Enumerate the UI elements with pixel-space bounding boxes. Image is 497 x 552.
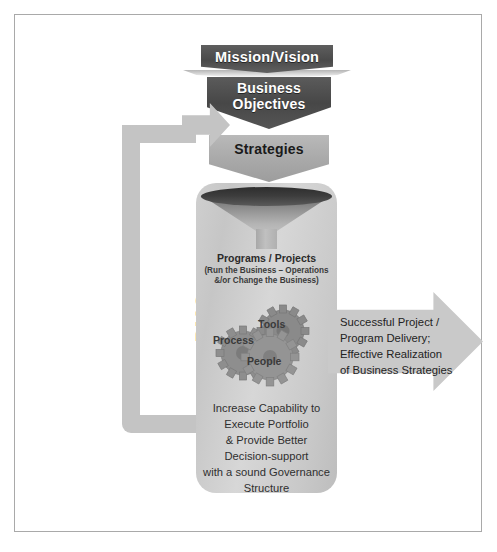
capability-line6: Structure <box>191 481 342 497</box>
capability-line1: Increase Capability to <box>191 401 342 417</box>
diagram-frame: Mission/Vision Business Objectives Strat… <box>14 14 482 532</box>
outcome-line4: of Business Strategies <box>340 362 468 378</box>
diagram-canvas: Mission/Vision Business Objectives Strat… <box>0 0 497 552</box>
gear-label-process: Process <box>213 334 254 346</box>
mission-vision-banner[interactable]: Mission/Vision <box>201 45 333 73</box>
outcome-line3: Effective Realization <box>340 346 468 362</box>
business-objectives-line1: Business <box>237 80 301 96</box>
capability-line4: Decision-support <box>191 449 342 465</box>
outcome-text: Successful Project / Program Delivery; E… <box>340 314 468 378</box>
pmo-loop-top-corner <box>122 125 162 165</box>
funnel-rim <box>201 187 332 206</box>
capability-line2: Execute Portfolio <box>191 417 342 433</box>
pmo-loop-vertical-segment <box>122 125 140 415</box>
outcome-line1: Successful Project / <box>340 314 468 330</box>
gear-label-people: People <box>247 355 281 367</box>
funnel-stem <box>256 229 277 249</box>
mission-vision-label: Mission/Vision <box>215 45 319 65</box>
programs-projects-subtitle-line2: &/or Change the Business) <box>198 276 335 286</box>
pmo-loop-bottom-corner <box>122 391 162 433</box>
business-objectives-label: Business Objectives <box>233 77 306 112</box>
programs-projects-subtitle: (Run the Business – Operations &/or Chan… <box>198 266 335 287</box>
business-objectives-line2: Objectives <box>233 96 306 112</box>
strategies-label: Strategies <box>234 135 304 158</box>
gears-group: Tools Process People <box>211 301 329 383</box>
programs-projects-subtitle-line1: (Run the Business – Operations <box>198 266 335 276</box>
gear-label-tools: Tools <box>258 318 285 330</box>
programs-projects-block: Programs / Projects (Run the Business – … <box>198 253 335 286</box>
capability-line5: with a sound Governance <box>191 465 342 481</box>
outcome-line2: Program Delivery; <box>340 330 468 346</box>
capability-line3: & Provide Better <box>191 433 342 449</box>
funnel-icon <box>201 187 332 249</box>
programs-projects-title: Programs / Projects <box>198 253 335 265</box>
capability-statement: Increase Capability to Execute Portfolio… <box>191 401 342 496</box>
